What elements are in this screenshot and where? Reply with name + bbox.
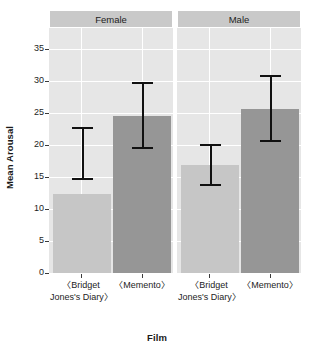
errorbar-cap-top [200, 144, 221, 146]
gridline-35 [177, 49, 301, 50]
errorbar-stem [270, 75, 272, 142]
y-tick-label: 30 [18, 76, 44, 85]
gridline-30 [49, 81, 173, 82]
panel-male [177, 28, 301, 273]
y-tick-label: 20 [18, 140, 44, 149]
errorbar-cap-bottom [200, 184, 221, 186]
y-tick-label: 5 [18, 236, 44, 245]
errorbar-cap-bottom [260, 140, 281, 142]
bar-female-bridget[interactable] [53, 194, 111, 273]
errorbar-cap-bottom [72, 178, 93, 180]
panel-female [49, 28, 173, 273]
panel-strip-label: Male [229, 14, 250, 25]
y-axis-ticks: 35 30 25 20 15 10 5 0 [18, 0, 49, 355]
chart-container: Mean Arousal 35 30 25 20 15 10 5 [0, 0, 314, 355]
x-tick-mark-female-memento [142, 274, 143, 278]
errorbar-stem [142, 82, 144, 149]
x-axis-title: Film [0, 332, 314, 343]
gridline-35 [49, 49, 173, 50]
errorbar-stem [82, 127, 84, 180]
errorbar-male-memento [260, 75, 281, 142]
panel-strip-label: Female [95, 14, 127, 25]
errorbar-cap-top [132, 82, 153, 84]
y-tick-label: 25 [18, 108, 44, 117]
y-tick-label: 10 [18, 204, 44, 213]
errorbar-cap-top [260, 75, 281, 77]
errorbar-female-memento [132, 82, 153, 149]
x-tick-mark-male-memento [270, 274, 271, 278]
y-tick-mark [45, 273, 49, 274]
errorbar-female-bridget [72, 127, 93, 180]
gridline-30 [177, 81, 301, 82]
errorbar-cap-bottom [132, 147, 153, 149]
panel-strip-male: Male [177, 10, 301, 28]
y-tick-label: 35 [18, 44, 44, 53]
errorbar-cap-top [72, 127, 93, 129]
x-label-male-bridget: 〈Bridget Jones's Diary〉 [178, 280, 240, 303]
gridline-25 [49, 113, 173, 114]
x-tick-mark-female-bridget [81, 274, 82, 278]
x-tick-mark-male-bridget [209, 274, 210, 278]
errorbar-male-bridget [200, 144, 221, 186]
y-axis-title: Mean Arousal [4, 108, 15, 208]
y-tick-label: 15 [18, 172, 44, 181]
y-tick-label: 0 [18, 268, 44, 277]
errorbar-stem [210, 144, 212, 186]
x-label-female-memento: 〈Memento〉 [111, 280, 173, 292]
panel-strip-female: Female [49, 10, 173, 28]
x-label-male-memento: 〈Memento〉 [239, 280, 301, 292]
x-label-female-bridget: 〈Bridget Jones's Diary〉 [50, 280, 112, 303]
